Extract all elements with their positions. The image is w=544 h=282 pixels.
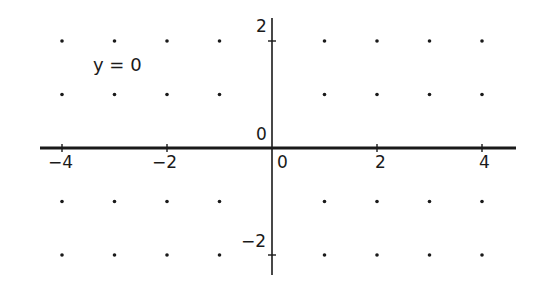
grid-dot <box>375 39 379 43</box>
grid-dot <box>165 93 169 97</box>
grid-dot <box>480 253 484 257</box>
y-tick-label-neg2: −2 <box>241 233 266 250</box>
x-tick-label-0: 0 <box>277 154 288 171</box>
grid-dot <box>165 200 169 204</box>
grid-dot <box>428 93 432 97</box>
grid-dot <box>323 93 327 97</box>
y-tick-label-2: 2 <box>256 18 267 35</box>
grid-dot <box>113 39 117 43</box>
grid-dot <box>323 200 327 204</box>
grid-dot <box>323 253 327 257</box>
grid-dot <box>165 39 169 43</box>
grid-dot <box>480 39 484 43</box>
grid-dot <box>218 200 222 204</box>
grid-dot <box>60 200 64 204</box>
grid-dot <box>218 253 222 257</box>
grid-dot <box>60 253 64 257</box>
grid-dot <box>60 39 64 43</box>
grid-dot <box>113 93 117 97</box>
grid-dot <box>375 200 379 204</box>
grid-dot <box>218 39 222 43</box>
graph-plot <box>0 0 544 282</box>
grid-dot <box>480 200 484 204</box>
grid-dot <box>375 93 379 97</box>
grid-dot <box>113 253 117 257</box>
x-tick-label-neg4: −4 <box>48 154 73 171</box>
grid-dot <box>323 39 327 43</box>
grid-dot <box>218 93 222 97</box>
grid-dot <box>165 253 169 257</box>
grid-dot <box>428 253 432 257</box>
x-tick-label-neg2: −2 <box>152 154 177 171</box>
y-tick-label-0: 0 <box>256 126 267 143</box>
grid-dot <box>428 39 432 43</box>
x-tick-label-2: 2 <box>375 154 386 171</box>
grid-dot <box>375 253 379 257</box>
grid-dot <box>480 93 484 97</box>
grid-dot <box>60 93 64 97</box>
equation-label: y = 0 <box>93 56 142 74</box>
grid-dot <box>113 200 117 204</box>
x-tick-label-4: 4 <box>479 154 490 171</box>
grid-dot <box>428 200 432 204</box>
